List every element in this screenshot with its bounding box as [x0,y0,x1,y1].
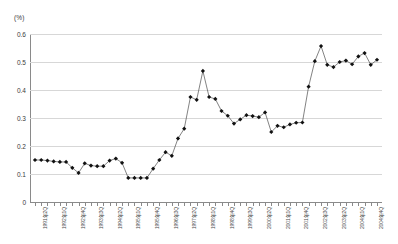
x-tick [240,202,241,206]
data-point-marker [244,113,248,117]
data-point-marker [300,120,304,124]
x-tick [153,202,154,206]
x-tick-label: 1991年2Q [43,207,48,229]
x-tick [141,202,142,206]
x-tick [122,202,123,206]
x-tick [190,202,191,206]
x-tick [97,202,98,206]
x-tick-label: 1993年3Q [99,207,104,229]
x-tick [147,202,148,206]
x-tick [265,202,266,206]
data-point-marker [176,136,180,140]
x-tick [178,202,179,206]
y-tick-label: 0.3 [17,116,26,123]
data-point-marker [182,127,186,131]
x-tick [284,202,285,206]
x-tick [79,202,80,206]
x-tick [365,202,366,206]
data-point-marker [313,59,317,63]
y-tick-label: 0.4 [17,88,26,95]
x-tick [327,202,328,206]
x-tick [321,202,322,206]
data-point-marker [139,176,143,180]
x-tick-label: 1997年2Q [192,207,197,229]
data-point-marker [294,121,298,125]
x-tick-label: 1992年4Q [81,207,86,229]
x-tick [352,202,353,206]
x-tick [184,202,185,206]
x-tick-label: 2004年4Q [379,207,384,229]
data-point-marker [39,158,43,162]
x-tick [91,202,92,206]
x-tick-label: 2000年2Q [267,207,272,229]
y-tick-label: 0 [22,200,26,207]
x-tick [54,202,55,206]
data-point-marker [288,122,292,126]
x-tick [271,202,272,206]
data-point-marker [89,164,93,168]
data-point-marker [145,176,149,180]
x-tick [333,202,334,206]
x-tick [209,202,210,206]
x-tick-label: 1998年1Q [211,207,216,229]
data-point-marker [282,125,286,129]
data-point-marker [319,44,323,48]
x-tick [60,202,61,206]
x-tick-label: 1995年4Q [155,207,160,229]
x-axis-ticks [30,202,382,206]
data-point-marker [114,157,118,161]
data-point-marker [201,69,205,73]
x-tick [340,202,341,206]
x-axis-labels: 1991年2Q1992年1Q1992年4Q1993年3Q1994年2Q1995年… [30,207,382,231]
x-tick [72,202,73,206]
x-tick [110,202,111,206]
x-tick-label: 2001年1Q [286,207,291,229]
x-tick [296,202,297,206]
data-point-marker [120,161,124,165]
x-tick [203,202,204,206]
y-tick-label: 0.6 [17,32,26,39]
data-point-marker [207,95,211,99]
x-tick [315,202,316,206]
data-point-marker [45,158,49,162]
x-tick [134,202,135,206]
y-tick-label: 0.1 [17,172,26,179]
data-point-marker [325,63,329,67]
x-tick [116,202,117,206]
x-tick [166,202,167,206]
x-tick [371,202,372,206]
x-tick [346,202,347,206]
x-tick-label: 1995年1Q [136,207,141,229]
plot-area: 00.10.20.30.40.50.6 [30,34,382,202]
x-tick [172,202,173,206]
x-tick [290,202,291,206]
x-tick [228,202,229,206]
x-tick [309,202,310,206]
x-tick [358,202,359,206]
data-point-marker [251,114,255,118]
data-point-marker [238,117,242,121]
y-axis-unit-label: (%) [14,14,25,21]
x-tick-label: 1999年3Q [248,207,253,229]
y-tick-label: 0.5 [17,60,26,67]
data-point-marker [132,176,136,180]
data-point-marker [52,159,56,163]
x-tick-label: 2002年3Q [323,207,328,229]
x-tick [234,202,235,206]
data-point-marker [362,51,366,55]
x-tick [159,202,160,206]
data-point-marker [95,164,99,168]
x-tick-label: 1992年1Q [62,207,67,229]
x-tick-label: 2003年2Q [342,207,347,229]
y-tick-label: 0.2 [17,144,26,151]
data-point-marker [33,158,37,162]
chart-container: (%) 00.10.20.30.40.50.6 1991年2Q1992年1Q19… [0,0,398,244]
data-point-marker [58,160,62,164]
x-tick [377,202,378,206]
x-tick [246,202,247,206]
x-tick [215,202,216,206]
x-tick-label: 2001年4Q [304,207,309,229]
x-tick [41,202,42,206]
series-line [35,46,377,178]
x-tick [302,202,303,206]
